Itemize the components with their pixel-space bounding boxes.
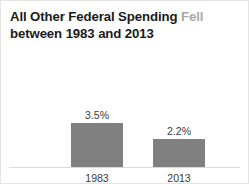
bar-value-label: 3.5% [71,109,123,121]
chart-title-line1-main: All Other Federal Spending [10,9,177,24]
chart-title: All Other Federal Spending Fell between … [10,8,242,42]
bar-value-label: 2.2% [153,125,205,137]
bar[interactable] [71,123,123,167]
chart-title-line2: between 1983 and 2013 [10,26,154,41]
bar-chart-plot-area: 3.5% 2.2% 1983 2013 [1,53,248,183]
category-label-2013: 2013 [153,172,205,184]
bar-group-2013: 2.2% [153,125,205,167]
chart-baseline [9,167,240,168]
bar[interactable] [153,139,205,167]
category-label-1983: 1983 [71,172,123,184]
chart-card: All Other Federal Spending Fell between … [0,0,249,184]
chart-title-emphasis: Fell [181,9,203,24]
bar-group-1983: 3.5% [71,109,123,167]
